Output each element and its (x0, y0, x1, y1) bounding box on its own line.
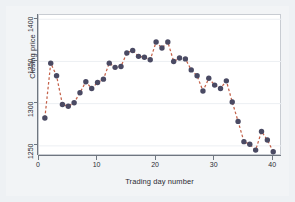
y-axis-label: Closing price (28, 22, 37, 92)
x-tick-label: 30 (204, 161, 224, 168)
x-tick-mark (272, 156, 273, 160)
x-tick-label: 10 (87, 161, 107, 168)
x-tick-label: 20 (145, 161, 165, 168)
x-axis-ticks: 010203040 (0, 0, 295, 202)
x-tick-mark (213, 156, 214, 160)
x-tick-label: 40 (262, 161, 282, 168)
x-tick-mark (155, 156, 156, 160)
x-tick-label: 0 (28, 161, 48, 168)
x-tick-mark (96, 156, 97, 160)
x-tick-mark (38, 156, 39, 160)
chart-figure: 1400135013001250 010203040 Closing price… (0, 0, 295, 202)
x-axis-line (38, 155, 281, 156)
x-axis-label: Trading day number (38, 177, 281, 186)
